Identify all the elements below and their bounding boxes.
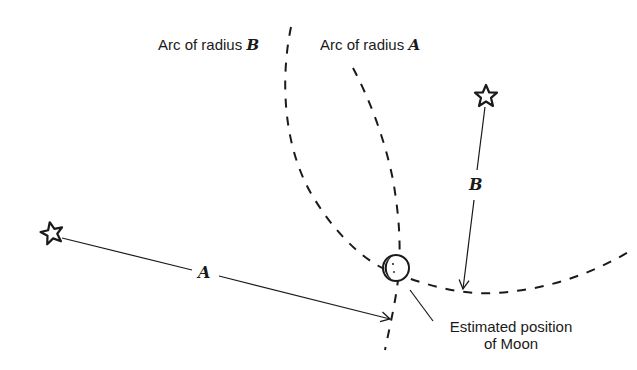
segment-a-label: A — [195, 264, 213, 282]
moon-leader-line — [410, 290, 433, 321]
star-icon — [475, 85, 497, 106]
arc-b-variable: B — [246, 36, 259, 54]
segment-a-line-1 — [62, 238, 192, 270]
moon-label-line-2: of Moon — [440, 335, 582, 352]
moon-label-line-1: Estimated position — [440, 318, 582, 335]
segment-b-line-2 — [463, 200, 474, 289]
segment-b-label: B — [466, 176, 486, 194]
arc-a-label-text: Arc of radius — [320, 36, 408, 53]
arc-b-label-text: Arc of radius — [158, 36, 246, 53]
segment-a-line-2 — [219, 276, 390, 319]
moon-position-diagram: Arc of radius B Arc of radius A A B Esti… — [0, 0, 637, 370]
arc-a-variable: A — [408, 36, 420, 54]
arc-radius-b — [285, 27, 632, 293]
diagram-canvas — [0, 0, 637, 370]
star-icon — [39, 220, 65, 245]
crescent-moon-icon — [383, 255, 409, 281]
arc-radius-a — [353, 68, 400, 350]
segment-b-line-1 — [477, 107, 485, 170]
moon-position-label: Estimated position of Moon — [440, 318, 582, 352]
arc-a-label: Arc of radius A — [320, 36, 420, 54]
arc-b-label: Arc of radius B — [158, 36, 259, 54]
